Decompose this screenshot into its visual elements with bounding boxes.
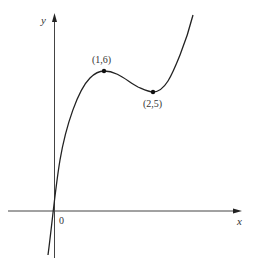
y-axis — [52, 13, 57, 258]
function-curve — [48, 15, 193, 255]
y-axis-label: y — [40, 14, 46, 26]
origin-label: 0 — [59, 215, 64, 226]
point-local-max — [102, 69, 106, 73]
y-axis-arrow-icon — [52, 13, 57, 22]
chart-canvas: y x 0 (1,6) (2,5) — [0, 0, 255, 263]
point-local-min — [151, 90, 155, 94]
point-min-label: (2,5) — [143, 98, 162, 110]
x-axis — [8, 209, 242, 214]
x-axis-label: x — [236, 215, 242, 227]
x-axis-arrow-icon — [233, 209, 242, 214]
point-max-label: (1,6) — [92, 54, 111, 66]
